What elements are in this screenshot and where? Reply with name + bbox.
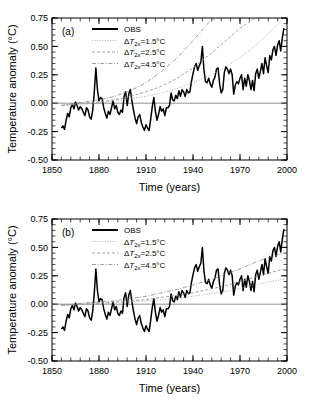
x-tick-label: 1970 [230,165,250,175]
y-tick-label: 0.25 [30,70,48,80]
y-tick-label: 0.75 [30,13,48,23]
x-tick-label: 1850 [42,366,62,376]
chart-panel-b: 1850188019101940197020000.750.500.250.00… [0,201,315,402]
legend-label: OBS [124,25,141,34]
legend-label: ΔT2x=4.5°C [124,261,166,271]
legend-label: ΔT2x=1.5°C [124,37,166,47]
chart-panel-a: 1850188019101940197020000.750.500.250.00… [0,0,315,201]
x-tick-label: 1880 [89,366,109,376]
chart-legend: OBSΔT2x=1.5°CΔT2x=2.5°CΔT2x=4.5°C [92,226,166,271]
x-tick-label: 1880 [89,165,109,175]
panel-label: (b) [62,227,74,238]
x-tick-label: 1940 [183,165,203,175]
x-tick-label: 2000 [277,165,297,175]
y-tick-label: 0.50 [30,42,48,52]
x-tick-label: 1850 [42,165,62,175]
y-tick-label: 0.75 [30,214,48,224]
x-tick-label: 1970 [230,366,250,376]
legend-label: OBS [124,226,141,235]
data-series-group [61,229,283,331]
y-tick-label: 0.00 [30,299,48,309]
y-tick-label: 0.00 [30,98,48,108]
figure-container: 1850188019101940197020000.750.500.250.00… [0,0,315,402]
y-axis-title: Temperature anomaly (°C) [6,24,18,153]
x-tick-label: 1910 [136,165,156,175]
series-line [61,28,283,130]
y-tick-label: -0.50 [27,155,48,165]
y-tick-label: -0.25 [27,328,48,338]
x-axis-title: Time (years) [139,181,200,193]
chart-legend: OBSΔT2x=1.5°CΔT2x=2.5°CΔT2x=4.5°C [92,25,166,70]
legend-label: ΔT2x=4.5°C [124,60,166,70]
y-tick-label: -0.50 [27,356,48,366]
panel-label: (a) [62,26,74,37]
series-line [61,229,283,331]
y-tick-label: -0.25 [27,127,48,137]
x-axis-title: Time (years) [139,382,200,394]
y-tick-label: 0.25 [30,271,48,281]
x-tick-label: 2000 [277,366,297,376]
x-tick-label: 1910 [136,366,156,376]
legend-label: ΔT2x=2.5°C [124,249,166,259]
y-axis-title: Temperature anomaly (°C) [6,225,18,354]
data-series-group [61,18,283,130]
y-tick-label: 0.50 [30,243,48,253]
legend-label: ΔT2x=2.5°C [124,48,166,58]
legend-label: ΔT2x=1.5°C [124,238,166,248]
x-tick-label: 1940 [183,366,203,376]
